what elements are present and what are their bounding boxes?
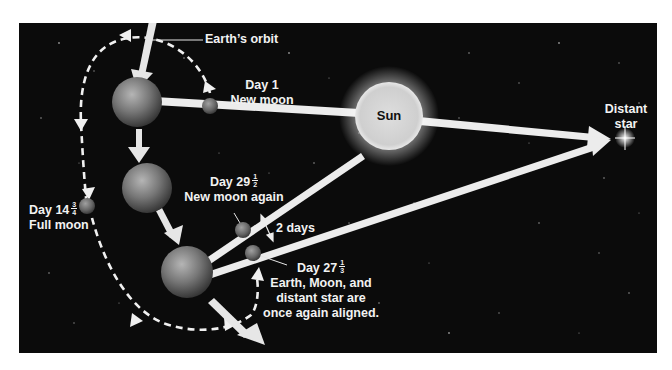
day29-title: Day 2912 — [179, 175, 289, 190]
day1-label: Day 1 New moon — [227, 78, 297, 108]
day1-subtitle: New moon — [227, 93, 297, 108]
day14-fraction: 34 — [71, 201, 77, 216]
day27-label: Day 2713 Earth, Moon, and distant star a… — [251, 261, 391, 321]
day29-prefix: Day 29 — [210, 175, 250, 189]
day14-prefix: Day 14 — [29, 203, 69, 217]
day14-label: Day 1434 Full moon — [29, 203, 89, 233]
day1-title: Day 1 — [227, 78, 297, 93]
moon-day1 — [202, 98, 218, 114]
day27-line4: once again aligned. — [251, 306, 391, 321]
distant-star-line2: star — [599, 117, 653, 132]
earth-day27 — [161, 246, 213, 298]
day27-numerator: 1 — [339, 259, 345, 267]
day27-line3: distant star are — [251, 291, 391, 306]
distant-star-line1: Distant — [599, 102, 653, 117]
day29-denominator: 2 — [252, 181, 258, 188]
two-days-label: 2 days — [276, 221, 315, 236]
day29-subtitle: New moon again — [179, 190, 289, 205]
moon-day27 — [245, 245, 261, 261]
day14-denominator: 4 — [71, 209, 77, 216]
moon-day29 — [235, 222, 251, 238]
earth-day1 — [112, 77, 162, 127]
day27-denominator: 3 — [339, 267, 345, 274]
diagram-panel: Earth’s orbit Day 1 New moon Sun Distant… — [19, 23, 657, 353]
day29-label: Day 2912 New moon again — [179, 175, 289, 205]
day27-title: Day 2713 — [251, 261, 391, 276]
day27-line2: Earth, Moon, and — [251, 276, 391, 291]
day14-title: Day 1434 — [29, 203, 89, 218]
day27-prefix: Day 27 — [297, 261, 337, 275]
day14-subtitle: Full moon — [29, 218, 89, 233]
distant-star-label: Distant star — [599, 102, 653, 132]
sun-label: Sun — [369, 108, 409, 123]
day27-fraction: 13 — [339, 259, 345, 274]
day14-numerator: 3 — [71, 201, 77, 209]
day29-fraction: 12 — [252, 173, 258, 188]
day29-numerator: 1 — [252, 173, 258, 181]
earth-mid — [122, 163, 172, 213]
earth-orbit-label: Earth’s orbit — [205, 32, 278, 47]
